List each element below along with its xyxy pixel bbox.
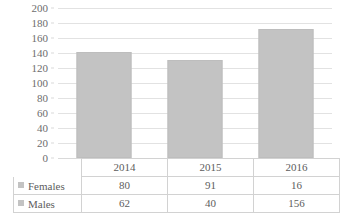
legend-entry[interactable]: Females — [14, 177, 82, 195]
plot-area — [58, 8, 332, 158]
y-axis-tick-label: 100 — [32, 78, 49, 89]
table-row: Females809116 — [14, 177, 340, 195]
table-header-cell: 2015 — [168, 159, 254, 177]
legend-label: Males — [28, 197, 55, 209]
y-axis-tick-mark — [51, 113, 54, 114]
y-axis-tick-mark — [51, 143, 54, 144]
y-axis-tick-mark — [51, 8, 54, 9]
table-corner-cell — [14, 159, 82, 177]
y-axis-tick-mark — [51, 83, 54, 84]
bar-series — [58, 8, 332, 158]
y-axis-tick-label: 180 — [32, 18, 49, 29]
bar-slot — [241, 8, 332, 158]
table-value-cell: 156 — [254, 195, 340, 213]
legend-swatch-icon — [18, 182, 24, 188]
y-axis-tick-mark — [51, 53, 54, 54]
chart-figure: 200180160140120100806040200 201420152016… — [0, 0, 341, 216]
y-axis-tick-mark — [51, 128, 54, 129]
table-value-cell: 62 — [82, 195, 168, 213]
y-axis-tick-label: 20 — [37, 138, 48, 149]
bar-slot — [58, 8, 149, 158]
y-axis-tick-label: 140 — [32, 48, 49, 59]
legend-entry[interactable]: Males — [14, 195, 82, 213]
y-axis-tick-label: 80 — [37, 93, 48, 104]
table-value-cell: 80 — [82, 177, 168, 195]
table-row: 201420152016 — [14, 159, 340, 177]
bar-slot — [149, 8, 240, 158]
bar[interactable] — [167, 60, 222, 158]
y-axis-tick-label: 160 — [32, 33, 49, 44]
y-axis-tick-label: 200 — [32, 3, 49, 14]
table-header-cell: 2016 — [254, 159, 340, 177]
legend-swatch-icon — [18, 200, 24, 206]
y-axis-tick-mark — [51, 23, 54, 24]
table-value-cell: 40 — [168, 195, 254, 213]
y-axis-tick-label: 40 — [37, 123, 48, 134]
y-axis-tick-mark — [51, 68, 54, 69]
table-header-cell: 2014 — [82, 159, 168, 177]
y-axis-labels: 200180160140120100806040200 — [0, 8, 54, 158]
chart-data-table: 201420152016Females809116Males6240156 — [13, 158, 340, 213]
bar[interactable] — [259, 29, 314, 158]
y-axis-tick-label: 120 — [32, 63, 49, 74]
chart-data-table-body: 201420152016Females809116Males6240156 — [14, 159, 340, 213]
y-axis-tick-mark — [51, 98, 54, 99]
table-value-cell: 16 — [254, 177, 340, 195]
bar[interactable] — [76, 52, 131, 159]
table-row: Males6240156 — [14, 195, 340, 213]
legend-label: Females — [28, 179, 65, 191]
y-axis-tick-mark — [51, 38, 54, 39]
y-axis-tick-label: 60 — [37, 108, 48, 119]
table-value-cell: 91 — [168, 177, 254, 195]
